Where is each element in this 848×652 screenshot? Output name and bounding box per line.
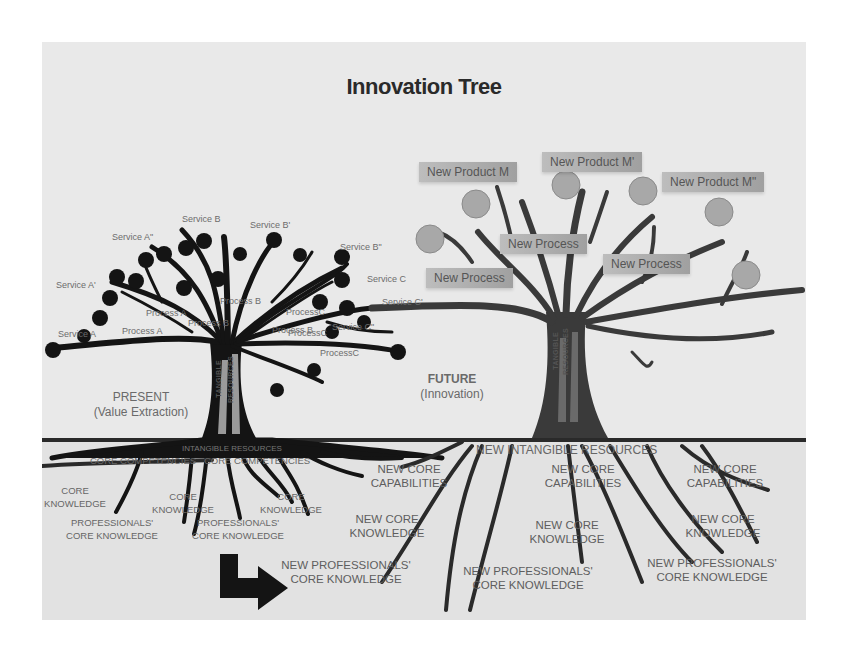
label-new-core-capabilities-1: NEW CORE CAPABILITIES <box>364 462 454 490</box>
box-new-process-3: New Process <box>603 254 690 274</box>
present-heading: PRESENT <box>76 390 206 405</box>
present-era-label: PRESENT (Value Extraction) <box>76 390 206 420</box>
box-new-process-1: New Process <box>500 234 587 254</box>
box-new-product-m-dprime: New Product M" <box>662 172 764 192</box>
diagram-title: Innovation Tree <box>42 74 806 100</box>
label-new-core-knowledge-3: NEW CORE KNOWLEDGE <box>678 512 768 540</box>
label-process-a-2: Process A <box>122 326 163 336</box>
present-subheading: (Value Extraction) <box>76 405 206 420</box>
present-trunk-label-tangible: TANGIBLE <box>215 360 222 398</box>
future-trunk-label-resources: RESOURCES <box>562 328 569 375</box>
label-process-b-3: Process B <box>188 318 229 328</box>
label-process-c-3: ProcessC <box>320 348 359 358</box>
label-core-competencies-1: CORE COMPETENCIES <box>90 454 170 467</box>
label-service-a-dprime: Service A" <box>112 232 153 242</box>
label-service-c-prime: Service C' <box>382 297 423 307</box>
future-era-label: FUTURE (Innovation) <box>402 372 502 402</box>
label-process-c-2: ProcessC <box>288 328 327 338</box>
future-trunk-label-tangible: TANGIBLE <box>552 332 559 370</box>
innovation-tree-slide: Innovation Tree Service B Service B' Ser… <box>42 42 806 620</box>
label-core-knowledge-3: CORE KNOWLEDGE <box>258 490 324 516</box>
label-service-a-prime: Service A' <box>56 280 96 290</box>
label-process-a-1: Process A <box>146 308 187 318</box>
label-process-b-1: Process B <box>220 296 261 306</box>
future-subheading: (Innovation) <box>402 387 502 402</box>
label-professionals-core-knowledge-1: PROFESSIONALS' CORE KNOWLEDGE <box>66 516 158 542</box>
label-service-b-prime: Service B' <box>250 220 290 230</box>
ground-line <box>42 438 806 442</box>
label-process-c-1: ProcessC <box>286 307 325 317</box>
box-new-process-2: New Process <box>426 268 513 288</box>
label-service-c: Service C <box>367 274 406 284</box>
label-new-core-capabilities-3: NEW CORE CAPABILITIES <box>680 462 770 490</box>
label-new-professionals-core-knowledge-1: NEW PROFESSIONALS' CORE KNOWLEDGE <box>276 558 416 586</box>
label-service-b: Service B <box>182 214 221 224</box>
label-new-core-knowledge-1: NEW CORE KNOWLEDGE <box>342 512 432 540</box>
label-professionals-core-knowledge-2: PROFESSIONALS' CORE KNOWLEDGE <box>192 516 284 542</box>
label-service-a: Service A <box>58 329 96 339</box>
box-new-product-m-prime: New Product M' <box>542 152 642 172</box>
label-new-professionals-core-knowledge-3: NEW PROFESSIONALS' CORE KNOWLEDGE <box>642 556 782 584</box>
present-trunk-label-resources: RESOURCES <box>227 356 234 403</box>
box-new-product-m: New Product M <box>419 162 517 182</box>
label-core-knowledge-1: CORE KNOWLEDGE <box>42 484 108 510</box>
label-new-core-capabilities-2: NEW CORE CAPABILITIES <box>538 462 628 490</box>
label-core-competencies-2: CORE COMPETENCIES <box>204 454 286 467</box>
label-service-b-dprime: Service B" <box>340 242 382 252</box>
label-new-core-knowledge-2: NEW CORE KNOWLEDGE <box>522 518 612 546</box>
label-core-knowledge-2: CORE KNOWLEDGE <box>150 490 216 516</box>
label-new-professionals-core-knowledge-2: NEW PROFESSIONALS' CORE KNOWLEDGE <box>458 564 598 592</box>
future-heading: FUTURE <box>402 372 502 387</box>
new-intangible-resources-header: NEW INTANGIBLE RESOURCES <box>476 443 657 457</box>
intangible-resources-header: INTANGIBLE RESOURCES <box>182 444 282 453</box>
label-service-c-dprime: Service C" <box>332 322 374 332</box>
